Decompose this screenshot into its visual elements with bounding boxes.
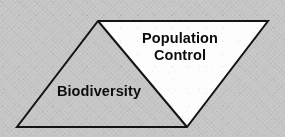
biodiversity-label: Biodiversity — [48, 83, 150, 100]
population-control-label: Population Control — [121, 30, 239, 65]
diagram-canvas: Population Control Biodiversity — [0, 0, 285, 137]
parallelogram-diagram — [0, 0, 285, 137]
